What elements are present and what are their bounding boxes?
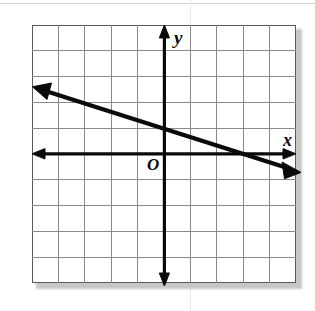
figure-canvas: y x O [0, 0, 315, 311]
plotted-line [33, 83, 302, 179]
origin-label: O [147, 156, 159, 173]
y-axis [159, 25, 169, 286]
y-axis-label: y [174, 28, 182, 47]
x-axis-label: x [283, 131, 292, 149]
